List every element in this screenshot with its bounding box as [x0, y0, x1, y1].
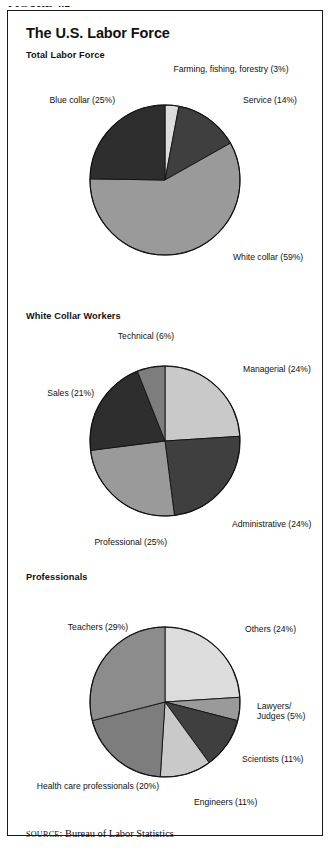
pie-slice — [165, 436, 240, 515]
slice-label: Technical (6%) — [86, 331, 206, 341]
pie-chart-total-labor-force: Farming, fishing, forestry (3%)Service (… — [0, 62, 333, 307]
figure-page: FIGURE 4.2 The U.S. Labor Force Total La… — [0, 0, 333, 852]
slice-label: Service (14%) — [243, 95, 328, 105]
section-label-professionals: Professionals — [26, 572, 88, 582]
source-prefix: SOURCE — [26, 830, 60, 839]
slice-label: Teachers (29%) — [40, 622, 128, 632]
slice-label: Lawyers/ Judges (5%) — [257, 701, 329, 722]
pie-chart-white-collar-workers: Managerial (24%)Administrative (24%)Prof… — [0, 323, 333, 568]
pie-svg — [0, 323, 333, 568]
slice-label: Administrative (24%) — [232, 519, 331, 529]
slice-label: Health care professionals (20%) — [4, 781, 159, 791]
slice-label: Others (24%) — [245, 624, 330, 634]
source-text: Bureau of Labor Statistics — [65, 828, 174, 839]
pie-chart-professionals: Others (24%)Lawyers/ Judges (5%)Scientis… — [0, 584, 333, 829]
pie-slice — [165, 627, 240, 702]
slice-label: Blue collar (25%) — [10, 95, 115, 105]
slice-label: Sales (21%) — [14, 388, 94, 398]
page-title: The U.S. Labor Force — [26, 25, 170, 41]
section-label-white-collar-workers: White Collar Workers — [26, 311, 121, 321]
pie-slice — [90, 105, 165, 180]
source-note: SOURCE: Bureau of Labor Statistics — [26, 828, 174, 839]
pie-slice — [91, 441, 175, 516]
slice-label: Farming, fishing, forestry (3%) — [136, 64, 326, 74]
slice-label: Managerial (24%) — [243, 364, 331, 374]
figure-number: FIGURE 4.2 — [8, 0, 70, 9]
slice-label: White collar (59%) — [233, 252, 328, 262]
section-label-total-labor-force: Total Labor Force — [26, 50, 105, 60]
slice-label: Engineers (11%) — [194, 797, 294, 807]
pie-slice — [165, 366, 240, 441]
slice-label: Scientists (11%) — [242, 754, 330, 764]
slice-label: Professional (25%) — [64, 537, 167, 547]
